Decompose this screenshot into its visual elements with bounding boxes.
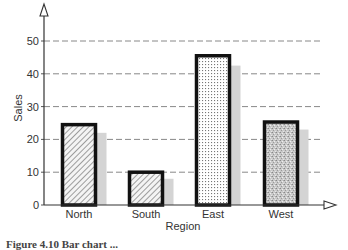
x-tick-label: West [269,208,294,220]
y-axis-label: Sales [12,94,24,122]
y-tick-label: 0 [33,199,39,211]
x-axis-label: Region [166,220,201,232]
y-tick-label: 10 [27,166,39,178]
bar-north [63,125,96,205]
x-tick-label: North [66,208,93,220]
y-tick-label: 50 [27,35,39,47]
x-axis-arrow-icon [324,201,336,209]
x-tick-label: East [202,208,224,220]
bar-south [130,172,163,205]
bar-east [197,56,230,205]
y-tick-label: 30 [27,101,39,113]
y-tick-label: 40 [27,68,39,80]
x-tick-label: South [132,208,161,220]
figure-caption: Figure 4.10 Bar chart ... [6,238,118,250]
bar-west [265,122,298,205]
y-tick-label: 20 [27,133,39,145]
y-axis-arrow-icon [40,4,48,16]
